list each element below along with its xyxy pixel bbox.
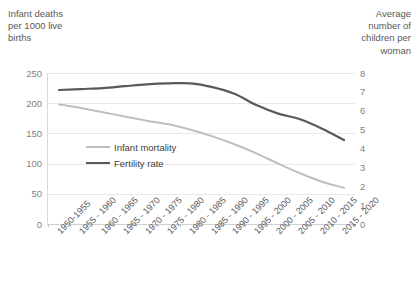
right-axis-tick-label: 3	[360, 162, 394, 173]
chart-container: Infant deaths per 1000 live births Avera…	[0, 0, 419, 291]
right-axis-tick-label: 2	[360, 181, 394, 192]
left-axis-tick-label: 100	[8, 158, 42, 169]
legend-item[interactable]: Infant mortality	[86, 139, 176, 155]
right-axis-tick-label: 5	[360, 124, 394, 135]
legend-item-label: Infant mortality	[114, 142, 176, 153]
legend-item[interactable]: Fertility rate	[86, 155, 176, 171]
legend-line-swatch	[86, 162, 110, 164]
left-axis-tick-label: 150	[8, 128, 42, 139]
right-axis-tick-label: 4	[360, 143, 394, 154]
legend-line-swatch	[86, 146, 110, 148]
left-axis-tick-label: 250	[8, 68, 42, 79]
right-axis-tick-label: 7	[360, 86, 394, 97]
chart-legend: Infant mortalityFertility rate	[86, 139, 176, 171]
left-axis-tick-label: 200	[8, 98, 42, 109]
right-axis-tick-label: 6	[360, 105, 394, 116]
left-axis-tick-label: 50	[8, 188, 42, 199]
x-axis-category-labels: 1950-19551955 - 19601960 - 19651965 - 19…	[0, 224, 419, 291]
right-axis-tick-label: 8	[360, 68, 394, 79]
legend-item-label: Fertility rate	[114, 158, 164, 169]
